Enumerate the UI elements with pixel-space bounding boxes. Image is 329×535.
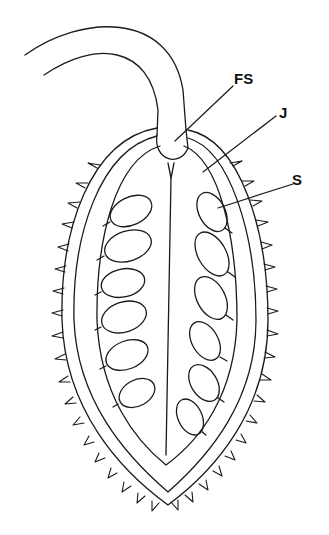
- label-s: S: [292, 172, 302, 187]
- fruit-section-diagram: [0, 0, 329, 535]
- fruit-locule: [97, 146, 237, 465]
- fruit-spines: [52, 161, 278, 511]
- label-leaders: [175, 86, 293, 208]
- fruit-stalk: [25, 27, 188, 178]
- label-j: J: [279, 105, 287, 120]
- seeds-left: [95, 189, 160, 413]
- seeds-right: [171, 187, 236, 439]
- label-fs: FS: [234, 71, 253, 86]
